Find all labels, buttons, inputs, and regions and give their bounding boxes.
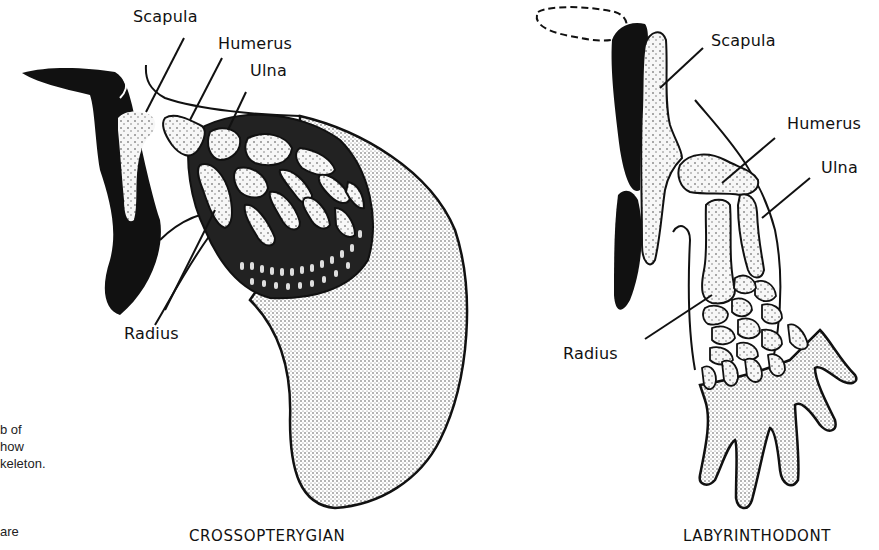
label-humerus-labyrinthodont: Humerus (787, 114, 861, 133)
clavicle-black-lower (614, 191, 642, 310)
diagram-canvas (0, 0, 879, 550)
label-radius-labyrinthodont: Radius (563, 344, 618, 363)
suprascapular-dashed (537, 7, 627, 41)
cleithrum-black (22, 68, 161, 315)
leader-radius-right (645, 295, 712, 339)
leader-ulna-right (762, 178, 810, 218)
label-humerus-crossopterygian: Humerus (218, 34, 292, 53)
side-caption-line-5: are (0, 523, 19, 540)
humerus-bone (678, 155, 758, 195)
side-caption-line-1: b of (0, 421, 22, 438)
ulna-bone (738, 194, 764, 277)
leader-radius-left (165, 210, 215, 310)
leader-scapula-left (146, 38, 184, 112)
crossopterygian-figure (22, 38, 467, 508)
label-ulna-labyrinthodont: Ulna (821, 158, 858, 177)
side-caption-line-2: how (0, 438, 24, 455)
caption-labyrinthodont: LABYRINTHODONT (683, 527, 831, 545)
leader-humerus-left (190, 58, 222, 120)
radius-bone (702, 200, 735, 304)
label-ulna-crossopterygian: Ulna (250, 61, 287, 80)
label-scapula-crossopterygian: Scapula (133, 7, 198, 26)
label-scapula-labyrinthodont: Scapula (711, 31, 776, 50)
side-caption-line-3: keleton. (0, 455, 46, 472)
label-radius-crossopterygian: Radius (124, 324, 179, 343)
labyrinthodont-figure (537, 7, 857, 508)
caption-crossopterygian: CROSSOPTERYGIAN (189, 527, 345, 545)
humerus-bone (163, 116, 205, 156)
